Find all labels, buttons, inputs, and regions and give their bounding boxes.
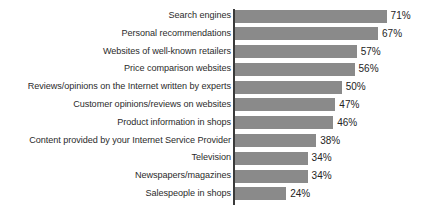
bar-value-label: 71% xyxy=(391,9,411,22)
bar xyxy=(235,152,308,165)
bar xyxy=(235,10,387,23)
category-label: Salespeople in shops xyxy=(146,187,231,200)
category-label: Search engines xyxy=(169,9,232,22)
bar-row: Customer opinions/reviews on websites47% xyxy=(0,98,421,116)
bar xyxy=(235,116,333,129)
bar-value-label: 67% xyxy=(382,27,402,40)
category-label: Product information in shops xyxy=(117,116,231,129)
bar-row: Newspapers/magazines34% xyxy=(0,169,421,187)
bar-wrapper xyxy=(235,134,316,147)
bar-wrapper xyxy=(235,63,355,76)
bar xyxy=(235,98,335,111)
bar-row: Content provided by your Internet Servic… xyxy=(0,134,421,152)
bar-value-label: 34% xyxy=(312,151,332,164)
bar-wrapper xyxy=(235,170,308,183)
bar-value-label: 46% xyxy=(337,116,357,129)
bar-wrapper xyxy=(235,27,378,40)
category-label: Price comparison websites xyxy=(124,62,231,75)
horizontal-bar-chart: Search engines71%Personal recommendation… xyxy=(0,0,421,212)
bar-wrapper xyxy=(235,81,342,94)
bar xyxy=(235,45,357,58)
bar-value-label: 50% xyxy=(346,80,366,93)
bar-row: Personal recommendations67% xyxy=(0,27,421,45)
bar xyxy=(235,27,378,40)
category-label: Customer opinions/reviews on websites xyxy=(73,98,231,111)
bar-wrapper xyxy=(235,45,357,58)
bar-value-label: 47% xyxy=(339,98,359,111)
category-label: Websites of well-known retailers xyxy=(103,45,231,58)
bar-row: Price comparison websites56% xyxy=(0,62,421,80)
bar xyxy=(235,170,308,183)
bar xyxy=(235,134,316,147)
bar xyxy=(235,63,355,76)
category-label: Content provided by your Internet Servic… xyxy=(29,134,231,147)
category-label: Television xyxy=(192,151,231,164)
bar-value-label: 34% xyxy=(312,169,332,182)
bar-row: Television34% xyxy=(0,151,421,169)
bar xyxy=(235,81,342,94)
bar-rows-container: Search engines71%Personal recommendation… xyxy=(0,9,421,205)
bar-wrapper xyxy=(235,98,335,111)
category-label: Reviews/opinions on the Internet written… xyxy=(28,80,231,93)
bar-value-label: 57% xyxy=(361,45,381,58)
bar-value-label: 24% xyxy=(290,187,310,200)
category-label: Personal recommendations xyxy=(122,27,232,40)
bar-row: Reviews/opinions on the Internet written… xyxy=(0,80,421,98)
bar-value-label: 38% xyxy=(320,134,340,147)
bar-wrapper xyxy=(235,187,286,200)
category-label: Newspapers/magazines xyxy=(135,169,231,182)
bar-row: Websites of well-known retailers57% xyxy=(0,45,421,63)
bar-row: Product information in shops46% xyxy=(0,116,421,134)
bar-value-label: 56% xyxy=(359,62,379,75)
bar xyxy=(235,187,286,200)
bar-row: Search engines71% xyxy=(0,9,421,27)
bar-wrapper xyxy=(235,10,387,23)
bar-wrapper xyxy=(235,116,333,129)
bar-wrapper xyxy=(235,152,308,165)
bar-row: Salespeople in shops24% xyxy=(0,187,421,205)
